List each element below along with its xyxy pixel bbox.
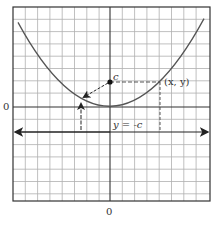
point-label: (x, y) (164, 77, 189, 87)
x-axis-zero-label: 0 (106, 207, 112, 217)
focus-distance-arrow (84, 83, 108, 97)
y-axis-zero-label: 0 (3, 102, 9, 112)
grid (13, 7, 210, 201)
focus-point (107, 79, 112, 84)
parabola-diagram (0, 0, 212, 226)
directrix-label: y = -c (113, 120, 142, 130)
frame (13, 7, 210, 201)
focus-label: c (113, 72, 119, 82)
